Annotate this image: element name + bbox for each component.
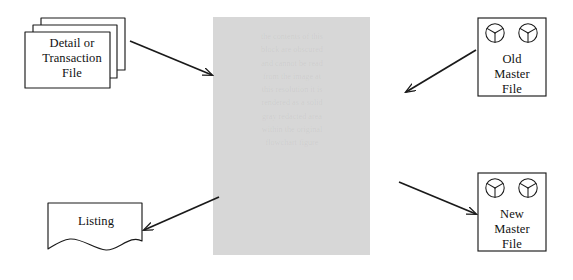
old-master-file-shape[interactable] [478, 18, 546, 96]
process-block [213, 17, 370, 255]
listing-shape[interactable] [48, 203, 142, 250]
flowchart-canvas: the contents of this block are obscured … [0, 0, 573, 280]
arrow-detail-to-process [130, 41, 212, 75]
new-master-file-shape[interactable] [478, 173, 546, 251]
arrow-process-to-listing [144, 197, 219, 230]
arrow-process-to-new-master [399, 182, 476, 214]
flowchart-svg [0, 0, 573, 280]
arrow-old-master-to-process [406, 50, 476, 92]
detail-transaction-file-shape[interactable] [25, 18, 125, 88]
